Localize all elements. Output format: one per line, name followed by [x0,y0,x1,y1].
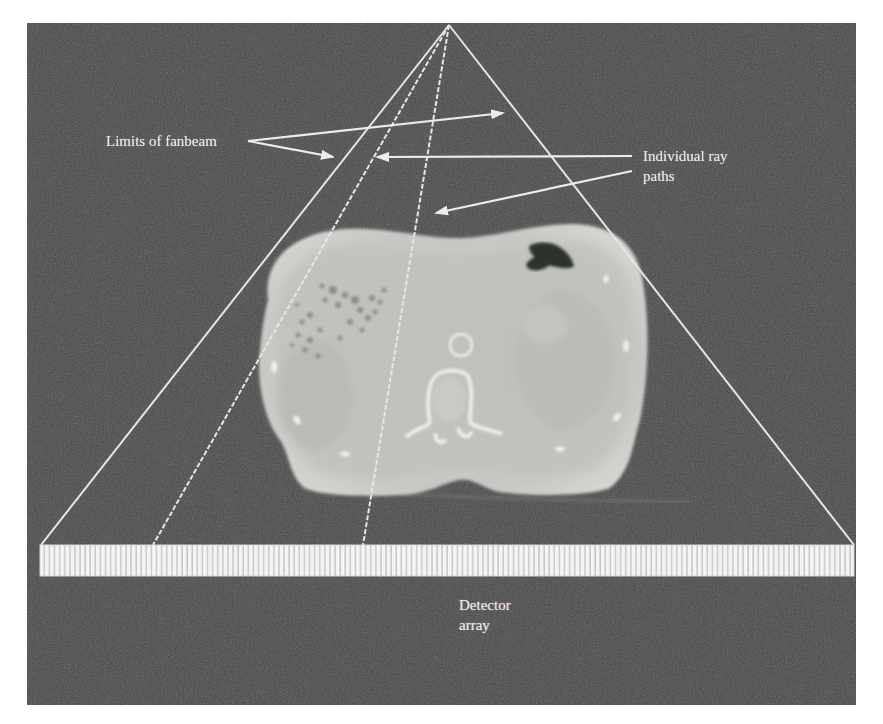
diagram-canvas [0,0,883,724]
ct-axial-slice-image [259,224,690,502]
ct-fanbeam-diagram: Limits of fanbeam Individual ray paths D… [0,0,883,724]
detector-array-label: Detector array [459,595,511,635]
detector-array-label-line2: array [459,615,511,635]
individual-ray-paths-label: Individual ray paths [643,146,728,186]
limits-of-fanbeam-label: Limits of fanbeam [106,131,217,151]
individual-ray-paths-label-line2: paths [643,166,728,186]
individual-ray-paths-label-line1: Individual ray [643,146,728,166]
detector-array-label-line1: Detector [459,595,511,615]
ray-arrow-horizontal [377,156,632,157]
detector-array [40,545,854,576]
